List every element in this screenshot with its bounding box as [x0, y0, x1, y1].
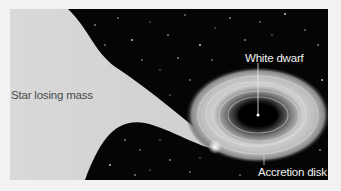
label-accretion-disk: Accretion disk: [258, 166, 327, 178]
label-star-losing-mass: Star losing mass: [11, 89, 93, 101]
binary-star-diagram: Star losing mass White dwarf Accretion d…: [0, 0, 341, 191]
label-white-dwarf: White dwarf: [245, 52, 304, 64]
hotspot: [208, 140, 222, 154]
